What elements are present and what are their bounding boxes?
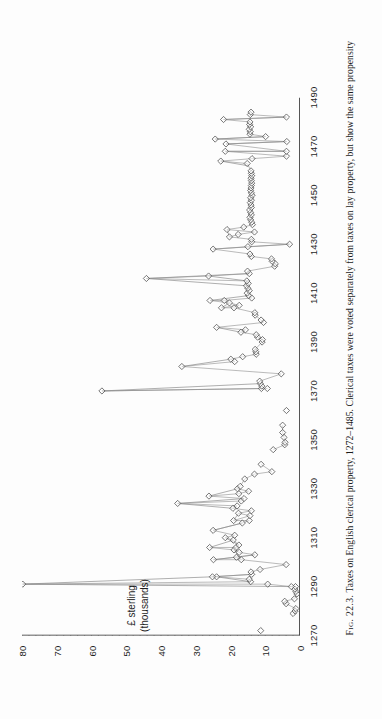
figure: 1270129013101330135013701390141014301450… bbox=[0, 0, 382, 719]
y-tick-30: 30 bbox=[190, 645, 201, 719]
y-tick-70: 70 bbox=[51, 645, 62, 719]
y-tick-40: 40 bbox=[156, 645, 167, 719]
figure-number: Fig. 22.3. bbox=[344, 594, 355, 635]
y-axis-title-line2: (thousands) bbox=[139, 579, 152, 632]
y-tick-20: 20 bbox=[225, 645, 236, 719]
y-tick-60: 60 bbox=[86, 645, 97, 719]
y-tick-80: 80 bbox=[17, 645, 28, 719]
y-axis-tick-labels: 01020304050607080 bbox=[0, 0, 382, 719]
figure-caption: Fig. 22.3. Taxes on English clerical pro… bbox=[344, 35, 355, 635]
y-axis-title: £ sterling (thousands) bbox=[126, 579, 151, 632]
figure-caption-text: Taxes on English clerical property, 1272… bbox=[344, 41, 355, 593]
page-canvas: 1270129013101330135013701390141014301450… bbox=[0, 0, 382, 719]
y-axis-title-line1: £ sterling bbox=[126, 579, 139, 632]
rotated-figure-wrapper: 1270129013101330135013701390141014301450… bbox=[0, 0, 382, 719]
y-tick-50: 50 bbox=[121, 645, 132, 719]
y-tick-10: 10 bbox=[260, 645, 271, 719]
y-tick-0: 0 bbox=[295, 645, 306, 719]
